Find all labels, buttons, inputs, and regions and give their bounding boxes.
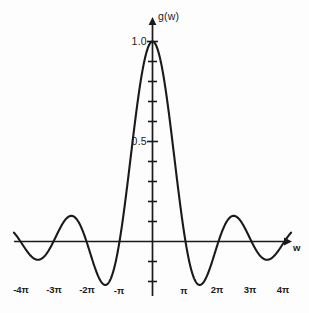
x-tick-label-neg-3pi: -3π: [46, 285, 62, 295]
y-axis-arrow-icon: [149, 17, 157, 25]
plot-canvas: [0, 0, 309, 313]
x-tick-label-neg-pi: -π: [114, 286, 124, 296]
x-tick-label-pi: π: [180, 286, 187, 296]
x-tick-label-neg-2pi: -2π: [79, 285, 95, 295]
sinc-function-plot: 1.0 0.5 g(w) w -4π -3π -2π -π π 2π 3π 4π: [0, 0, 309, 313]
x-tick-label-neg-4pi: -4π: [13, 285, 29, 295]
y-axis: [149, 17, 157, 296]
x-tick-label-4pi: 4π: [277, 285, 290, 295]
x-axis-title: w: [293, 243, 301, 253]
y-axis-title: g(w): [158, 11, 179, 22]
x-tick-label-3pi: 3π: [244, 285, 257, 295]
y-tick-label-1: 1.0: [132, 36, 148, 47]
y-tick-label-0-5: 0.5: [132, 136, 148, 147]
x-tick-label-2pi: 2π: [211, 285, 224, 295]
